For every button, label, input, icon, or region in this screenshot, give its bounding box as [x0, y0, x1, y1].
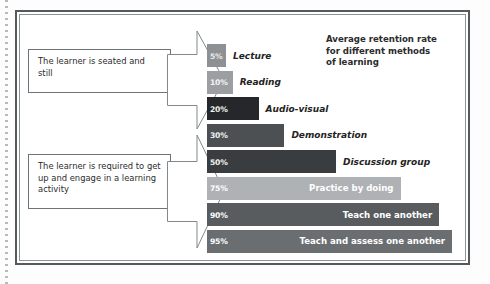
bar-value-label: 50%: [210, 157, 228, 166]
bar-category-label: Demonstration: [291, 130, 367, 140]
bar-value-label: 95%: [210, 237, 228, 246]
bar-reading: 10%: [207, 71, 233, 94]
bar-value-label: 5%: [210, 51, 223, 60]
learning-retention-figure: The learner is seated and still The lear…: [0, 0, 490, 284]
bar-value-label: 90%: [210, 210, 228, 219]
bar-row: 50%Discussion group: [207, 150, 465, 173]
bar-row: 95%Teach and assess one another: [207, 230, 465, 253]
bar-chart: 5%Lecture10%Reading20%Audio-visual30%Dem…: [207, 44, 465, 254]
bar-teach-and-assess-one-another: 95%Teach and assess one another: [207, 230, 452, 253]
bar-category-label: Teach one another: [343, 210, 433, 220]
bar-value-label: 75%: [210, 184, 228, 193]
bar-category-label: Practice by doing: [309, 183, 393, 193]
bar-value-label: 10%: [210, 78, 228, 87]
bar-row: 75%Practice by doing: [207, 177, 465, 200]
callout-passive-learning: The learner is seated and still: [28, 49, 171, 93]
figure-canvas: The learner is seated and still The lear…: [19, 14, 466, 261]
bar-demonstration: 30%: [207, 124, 284, 147]
bar-category-label: Audio-visual: [266, 104, 329, 114]
bar-teach-one-another: 90%Teach one another: [207, 203, 439, 226]
bar-value-label: 20%: [210, 104, 228, 113]
bar-row: 5%Lecture: [207, 44, 465, 67]
bar-category-label: Teach and assess one another: [299, 236, 445, 246]
bar-practice-by-doing: 75%Practice by doing: [207, 177, 401, 200]
bar-category-label: Reading: [240, 77, 281, 87]
bar-row: 20%Audio-visual: [207, 97, 465, 120]
bar-category-label: Discussion group: [343, 157, 430, 167]
bar-row: 90%Teach one another: [207, 203, 465, 226]
bar-row: 10%Reading: [207, 71, 465, 94]
bar-discussion-group: 50%: [207, 150, 336, 173]
bar-audio-visual: 20%: [207, 97, 259, 120]
bar-value-label: 30%: [210, 131, 228, 140]
callout-active-learning: The learner is required to get up and en…: [28, 154, 171, 209]
bar-row: 30%Demonstration: [207, 124, 465, 147]
scan-edge-artifact: [5, 0, 8, 284]
bar-lecture: 5%: [207, 44, 226, 67]
bar-category-label: Lecture: [233, 51, 271, 61]
